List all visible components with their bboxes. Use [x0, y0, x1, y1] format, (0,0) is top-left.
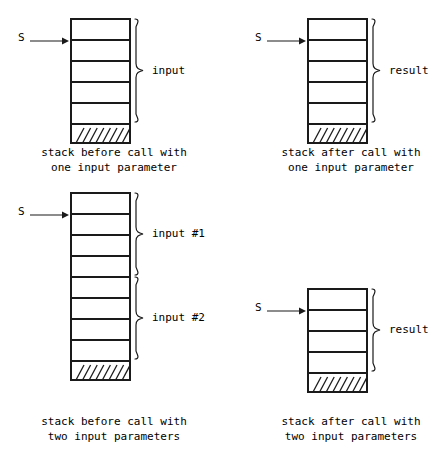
stack-before-two-inputs: [70, 192, 131, 381]
figure-caption-line1: stack after call with: [251, 145, 442, 160]
group-brace-before-two-inputs-0: [133, 192, 147, 280]
stack-cell: [72, 236, 129, 257]
stack-cell: [309, 41, 366, 62]
group-label-before-two-inputs-1: input #2: [152, 312, 205, 324]
stack-pointer-arrow-before-one-input: [30, 32, 72, 51]
stack-base-hatching: [72, 362, 129, 383]
stack-base-hatching: [309, 374, 366, 395]
stack-cell: [72, 215, 129, 236]
stack-pointer-label-after-two-inputs: S: [255, 302, 262, 313]
group-brace-before-two-inputs-1: [133, 276, 147, 364]
stack-cell: [72, 341, 129, 362]
stack-cell: [72, 62, 129, 83]
stack-cell: [309, 104, 366, 125]
stack-after-one-input: [307, 18, 368, 144]
stack-base-hatching: [309, 125, 366, 146]
stack-cell: [309, 62, 366, 83]
stack-cell: [309, 311, 366, 332]
figure-caption-line2: one input parameter: [14, 160, 214, 175]
stack-cell: [72, 278, 129, 299]
stack-cell: [309, 20, 366, 41]
figure-caption-line1: stack after call with: [251, 414, 442, 429]
figure-caption-line1: stack before call with: [14, 414, 214, 429]
group-brace-after-one-input-0: [370, 18, 384, 127]
stack-cell: [72, 41, 129, 62]
figure-caption-line2: two input parameters: [251, 429, 442, 444]
stack-pointer-label-after-one-input: S: [255, 32, 262, 43]
group-brace-before-one-input-0: [133, 18, 147, 127]
stack-cell: [309, 332, 366, 353]
stack-pointer-arrow-after-one-input: [267, 32, 309, 51]
figure-caption-line2: two input parameters: [14, 429, 214, 444]
stack-cell: [309, 290, 366, 311]
stack-before-one-input: [70, 18, 131, 144]
stack-cell: [72, 299, 129, 320]
stack-pointer-label-before-one-input: S: [18, 32, 25, 43]
stack-cell: [72, 257, 129, 278]
stack-cell: [72, 83, 129, 104]
group-label-after-two-inputs-0: result: [389, 324, 429, 336]
group-label-before-two-inputs-0: input #1: [152, 228, 205, 240]
stack-cell: [72, 104, 129, 125]
stack-cell: [72, 194, 129, 215]
figure-caption-after-one-input: stack after call withone input parameter: [251, 145, 442, 175]
figure-caption-before-two-inputs: stack before call withtwo input paramete…: [14, 414, 214, 444]
figure-caption-before-one-input: stack before call withone input paramete…: [14, 145, 214, 175]
stack-pointer-arrow-before-two-inputs: [30, 206, 72, 225]
stack-cell: [309, 83, 366, 104]
stack-cell: [72, 320, 129, 341]
group-label-before-one-input-0: input: [152, 65, 185, 77]
stack-cell: [309, 353, 366, 374]
stack-after-two-inputs: [307, 288, 368, 393]
group-label-after-one-input-0: result: [389, 65, 429, 77]
stack-pointer-arrow-after-two-inputs: [267, 302, 309, 321]
group-brace-after-two-inputs-0: [370, 288, 384, 376]
stack-base-hatching: [72, 125, 129, 146]
figure-caption-after-two-inputs: stack after call withtwo input parameter…: [251, 414, 442, 444]
figure-caption-line2: one input parameter: [251, 160, 442, 175]
diagram-canvas: Sinputstack before call withone input pa…: [0, 0, 442, 454]
stack-cell: [72, 20, 129, 41]
stack-pointer-label-before-two-inputs: S: [18, 206, 25, 217]
figure-caption-line1: stack before call with: [14, 145, 214, 160]
